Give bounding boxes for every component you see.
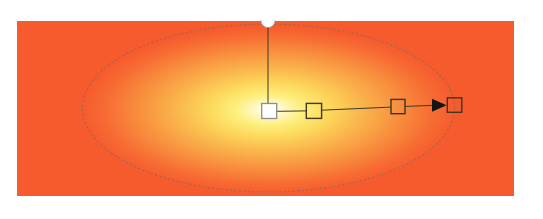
editor-canvas [0,0,543,219]
notch-mask [259,12,277,20]
artwork-viewport [0,0,543,219]
gradient-center-handle[interactable] [262,104,277,119]
